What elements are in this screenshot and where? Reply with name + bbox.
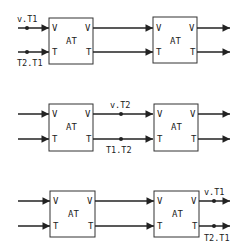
cascade-diagram: v.T1 T2.T1 V T V T AT V T V T AT V T V T…: [0, 0, 246, 248]
port-out-v: V: [191, 196, 197, 206]
block-label: AT: [66, 122, 77, 132]
row-3-output-probe: V T V T AT V T V T AT v.T1 T2.T1: [18, 187, 230, 243]
block-label: AT: [68, 209, 79, 219]
t-probe-label: T1.T2: [106, 145, 132, 155]
v-probe-label: v.T1: [17, 14, 37, 24]
port-in-v: V: [156, 23, 162, 33]
t-probe-label: T2.T1: [17, 58, 43, 68]
block-label: AT: [66, 36, 77, 46]
port-in-v: V: [52, 109, 58, 119]
row-2-between-probe: V T V T AT v.T2 T1.T2 V T V T AT: [18, 100, 230, 155]
probe-dot-v: [25, 26, 29, 30]
port-in-t: T: [157, 221, 163, 231]
block-label: AT: [171, 122, 182, 132]
probe-dot-t: [25, 50, 29, 54]
probe-dot-v: [119, 112, 123, 116]
port-in-t: T: [156, 47, 162, 57]
port-in-v: V: [52, 23, 58, 33]
t-probe-label: T2.T1: [204, 233, 230, 243]
block-label: AT: [170, 36, 181, 46]
v-probe-label: v.T2: [110, 100, 130, 110]
port-out-t: T: [86, 47, 92, 57]
row-1-input-probe: v.T1 T2.T1 V T V T AT V T V T AT: [17, 14, 230, 68]
port-out-t: T: [191, 134, 197, 144]
port-out-v: V: [85, 23, 91, 33]
port-out-t: T: [88, 221, 94, 231]
port-out-v: V: [189, 23, 195, 33]
port-out-v: V: [87, 196, 93, 206]
port-out-t: T: [86, 134, 92, 144]
v-probe-label: v.T1: [204, 187, 224, 197]
port-in-v: V: [157, 196, 163, 206]
probe-dot-t: [119, 137, 123, 141]
port-out-t: T: [192, 221, 198, 231]
port-in-t: T: [53, 221, 59, 231]
port-out-t: T: [190, 47, 196, 57]
port-in-t: T: [52, 47, 58, 57]
port-out-v: V: [85, 109, 91, 119]
port-in-v: V: [157, 109, 163, 119]
port-in-t: T: [157, 134, 163, 144]
port-out-v: V: [190, 109, 196, 119]
block-label: AT: [172, 209, 183, 219]
port-in-t: T: [52, 134, 58, 144]
port-in-v: V: [53, 196, 59, 206]
probe-dot-t: [212, 224, 216, 228]
probe-dot-v: [212, 199, 216, 203]
